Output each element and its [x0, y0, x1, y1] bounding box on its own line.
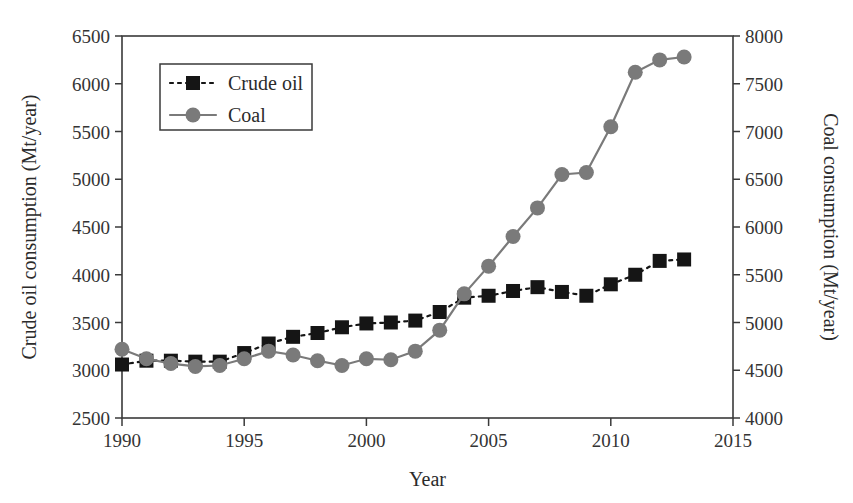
data-point-marker: [652, 52, 667, 67]
legend-marker: [186, 108, 201, 123]
data-point-marker: [628, 268, 642, 282]
data-point-marker: [432, 323, 447, 338]
right-tick-label: 7000: [745, 122, 783, 143]
data-point-marker: [139, 351, 154, 366]
right-tick-label: 5500: [745, 265, 783, 286]
x-tick-label: 2005: [470, 430, 508, 451]
data-point-marker: [408, 344, 423, 359]
data-point-marker: [506, 229, 521, 244]
x-axis-title: Year: [409, 468, 446, 490]
data-point-marker: [188, 359, 203, 374]
data-point-marker: [384, 316, 398, 330]
x-tick-label: 1990: [103, 430, 141, 451]
data-point-marker: [506, 284, 520, 298]
legend-label: Crude oil: [228, 72, 303, 94]
left-tick-label: 5500: [72, 122, 110, 143]
data-point-marker: [481, 259, 496, 274]
data-point-marker: [212, 358, 227, 373]
data-point-marker: [603, 119, 618, 134]
right-tick-label: 8000: [745, 26, 783, 47]
bottom-axis-ticks: 199019952000200520102015: [103, 418, 752, 451]
data-point-marker: [457, 286, 472, 301]
right-tick-label: 7500: [745, 74, 783, 95]
data-point-marker: [677, 252, 691, 266]
right-tick-label: 4000: [745, 408, 783, 429]
right-tick-label: 6000: [745, 217, 783, 238]
right-tick-label: 4500: [745, 360, 783, 381]
data-point-marker: [433, 305, 447, 319]
legend-marker: [186, 76, 200, 90]
left-tick-label: 4000: [72, 265, 110, 286]
right-tick-label: 6500: [745, 169, 783, 190]
left-tick-label: 3500: [72, 313, 110, 334]
data-point-marker: [163, 356, 178, 371]
data-point-marker: [579, 289, 593, 303]
left-tick-label: 5000: [72, 169, 110, 190]
data-point-marker: [408, 314, 422, 328]
data-point-marker: [359, 316, 373, 330]
data-point-marker: [579, 165, 594, 180]
data-point-marker: [359, 351, 374, 366]
x-tick-label: 2015: [714, 430, 752, 451]
data-point-marker: [482, 289, 496, 303]
right-axis-ticks: 400045005000550060006500700075008000: [733, 26, 783, 429]
series-line-crude-oil: [122, 259, 684, 364]
left-tick-label: 6000: [72, 74, 110, 95]
x-tick-label: 1995: [225, 430, 263, 451]
data-point-marker: [310, 353, 325, 368]
data-point-marker: [334, 358, 349, 373]
right-axis-title: Coal consumption (Mt/year): [819, 113, 842, 341]
data-point-marker: [286, 347, 301, 362]
data-point-marker: [677, 50, 692, 65]
data-point-marker: [554, 167, 569, 182]
data-point-marker: [628, 65, 643, 80]
data-point-marker: [286, 330, 300, 344]
data-point-marker: [261, 344, 276, 359]
left-tick-label: 6500: [72, 26, 110, 47]
chart-canvas: 250030003500400045005000550060006500 400…: [0, 0, 853, 503]
data-point-marker: [555, 285, 569, 299]
data-point-marker: [383, 352, 398, 367]
right-tick-label: 5000: [745, 313, 783, 334]
left-tick-label: 3000: [72, 360, 110, 381]
data-point-marker: [237, 351, 252, 366]
data-point-marker: [311, 326, 325, 340]
left-tick-label: 2500: [72, 408, 110, 429]
legend-label: Coal: [228, 104, 266, 126]
x-tick-label: 2010: [592, 430, 630, 451]
left-axis-title: Crude oil consumption (Mt/year): [18, 95, 41, 360]
data-point-marker: [530, 200, 545, 215]
data-point-marker: [604, 277, 618, 291]
left-tick-label: 4500: [72, 217, 110, 238]
figure-container: 250030003500400045005000550060006500 400…: [0, 0, 853, 503]
data-point-marker: [115, 342, 130, 357]
data-point-marker: [115, 358, 129, 372]
chart-legend: Crude oilCoal: [160, 64, 312, 130]
data-point-marker: [530, 280, 544, 294]
left-axis-ticks: 250030003500400045005000550060006500: [72, 26, 122, 429]
x-tick-label: 2000: [347, 430, 385, 451]
data-point-marker: [653, 254, 667, 268]
data-point-marker: [335, 320, 349, 334]
